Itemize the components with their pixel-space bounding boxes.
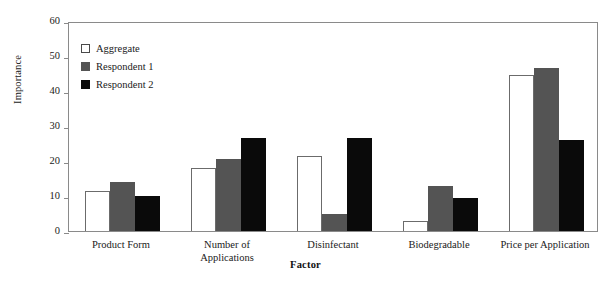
bar-chart: Importance 0102030405060 Product FormNum… <box>0 0 611 288</box>
y-axis-tick-label: 10 <box>50 190 61 201</box>
hollow-square-swatch <box>81 44 90 53</box>
y-axis-title: Importance <box>12 20 23 140</box>
x-axis-category-label: Price per Application <box>492 238 598 251</box>
black-square-swatch <box>81 80 90 89</box>
bar-group <box>297 23 372 231</box>
bar <box>559 140 584 231</box>
y-axis-tick-label: 60 <box>50 15 61 26</box>
legend-item: Respondent 1 <box>81 58 153 74</box>
bar <box>453 198 478 231</box>
bar-group <box>509 23 584 231</box>
bar <box>216 159 241 231</box>
legend-item: Respondent 2 <box>81 76 153 92</box>
y-axis-tick-label: 50 <box>50 50 61 61</box>
bar <box>428 186 453 232</box>
x-axis-category-label: Product Form <box>68 238 174 251</box>
legend-label: Respondent 1 <box>96 61 153 72</box>
legend-label: Respondent 2 <box>96 79 153 90</box>
bar-group <box>403 23 478 231</box>
bar <box>322 214 347 232</box>
y-axis-tick-label: 40 <box>50 85 61 96</box>
bar <box>297 156 322 231</box>
legend-item: Aggregate <box>81 40 153 56</box>
x-axis-title: Factor <box>0 259 611 270</box>
bar <box>135 196 160 231</box>
bar <box>241 138 266 231</box>
bar <box>85 191 110 231</box>
bar <box>110 182 135 231</box>
y-axis-tick-label: 20 <box>50 155 61 166</box>
y-axis-tick-label: 30 <box>50 120 61 131</box>
x-axis-category-label: Biodegradable <box>386 238 492 251</box>
bar <box>347 138 372 231</box>
bar-group <box>191 23 266 231</box>
bar <box>403 221 428 232</box>
bar <box>191 168 216 231</box>
y-axis-tick-label: 0 <box>55 225 60 236</box>
y-axis-tick-mark <box>64 233 69 234</box>
legend: AggregateRespondent 1Respondent 2 <box>81 40 153 94</box>
bar <box>509 75 534 231</box>
x-axis-category-label: Disinfectant <box>280 238 386 251</box>
legend-label: Aggregate <box>96 43 140 54</box>
gray-square-swatch <box>81 62 90 71</box>
bar <box>534 68 559 231</box>
